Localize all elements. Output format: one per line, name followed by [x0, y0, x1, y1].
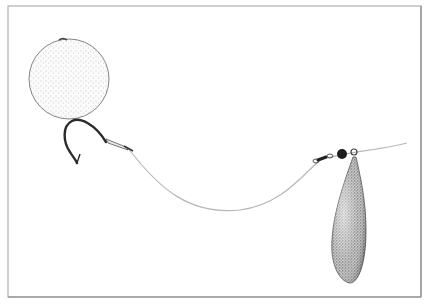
illustration-stage [0, 0, 428, 304]
swivel [313, 154, 333, 163]
boilie-bait [29, 39, 109, 120]
fishing-hook [65, 120, 133, 163]
fishing-line [128, 143, 407, 211]
fishing-rig-illustration [0, 0, 428, 304]
lead-weight [332, 149, 366, 283]
bead [337, 149, 347, 159]
